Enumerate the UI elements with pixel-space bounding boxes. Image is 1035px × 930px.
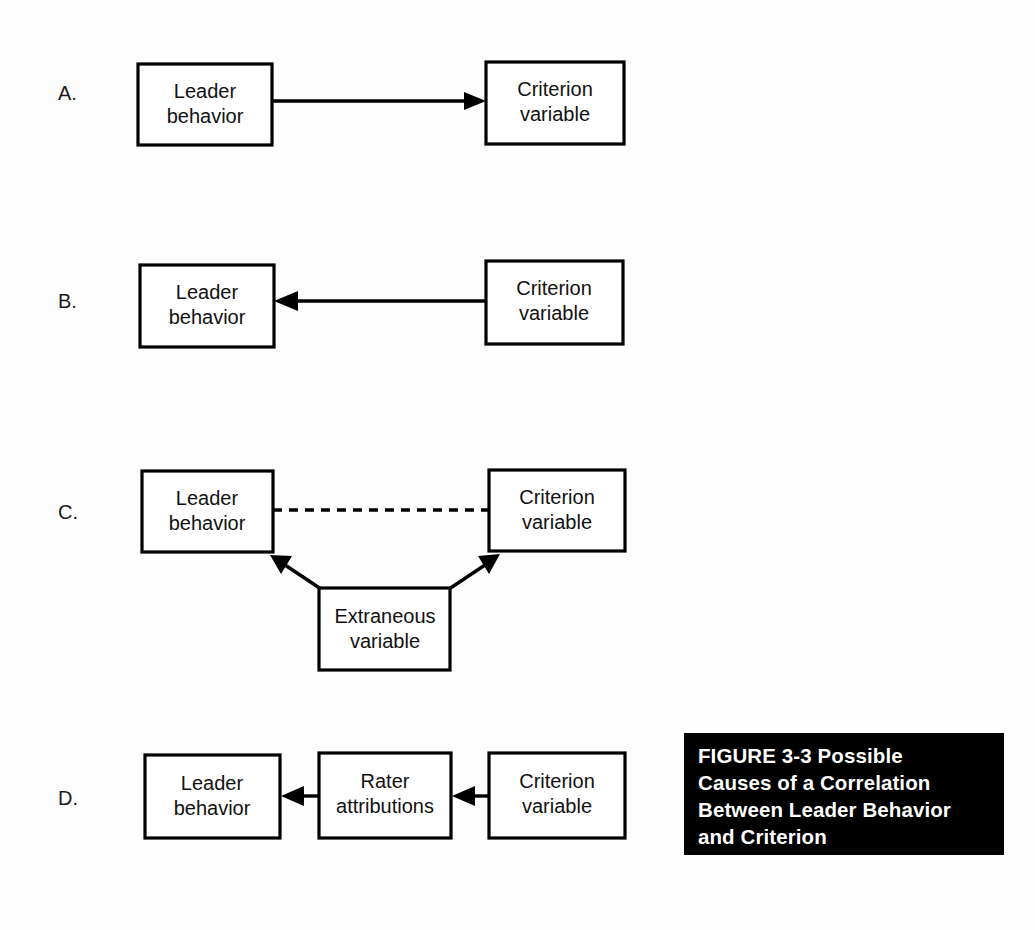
link-b-criterion-to-leader	[274, 291, 486, 311]
arrow-head-icon	[270, 555, 292, 574]
node-label-line2: variable	[522, 795, 592, 817]
arrow-head-icon	[478, 554, 500, 574]
node-c-extraneous: Extraneous variable	[319, 588, 450, 670]
panel-label-d: D.	[58, 787, 78, 809]
node-label-line2: behavior	[167, 105, 244, 127]
node-box	[319, 588, 450, 670]
connector-line	[449, 563, 488, 589]
link-c-extraneous-to-criterion	[449, 554, 500, 589]
arrow-head-icon	[464, 92, 486, 110]
node-c-leader: Leader behavior	[142, 471, 273, 552]
node-label-line2: behavior	[169, 306, 246, 328]
connector-line	[282, 563, 321, 589]
link-c-extraneous-to-leader	[270, 555, 321, 589]
node-label-line2: attributions	[336, 795, 434, 817]
node-label-line2: variable	[522, 511, 592, 533]
link-d-rater-to-leader	[281, 786, 320, 806]
node-b-criterion: Criterion variable	[486, 261, 623, 344]
node-label-line1: Extraneous	[334, 605, 435, 627]
node-label-line1: Criterion	[519, 770, 595, 792]
arrow-head-icon	[452, 786, 475, 806]
node-label-line1: Criterion	[519, 486, 595, 508]
arrow-head-icon	[274, 291, 298, 311]
arrow-head-icon	[281, 786, 304, 806]
panel-a: A. Leader behavior Criterion variable	[58, 62, 624, 145]
node-label-line2: behavior	[174, 797, 251, 819]
node-label-line2: behavior	[169, 512, 246, 534]
node-d-rater: Rater attributions	[319, 753, 451, 838]
node-d-leader: Leader behavior	[145, 755, 280, 838]
node-label-line1: Leader	[174, 80, 237, 102]
node-label-line2: variable	[520, 103, 590, 125]
panel-b: B. Leader behavior Criterion variable	[58, 261, 623, 347]
panel-label-b: B.	[58, 290, 77, 312]
node-label-line1: Criterion	[516, 277, 592, 299]
figure-caption-text: FIGURE 3-3 Possible Causes of a Correlat…	[698, 742, 1004, 850]
node-c-criterion: Criterion variable	[489, 470, 625, 551]
node-label-line2: variable	[519, 302, 589, 324]
node-label-line1: Criterion	[517, 78, 593, 100]
node-label-line1: Leader	[181, 772, 244, 794]
node-d-criterion: Criterion variable	[489, 753, 625, 838]
node-label-line1: Leader	[176, 281, 239, 303]
node-a-leader: Leader behavior	[138, 64, 272, 145]
link-a-leader-to-criterion	[272, 92, 486, 110]
panel-label-c: C.	[58, 501, 78, 523]
node-b-leader: Leader behavior	[140, 265, 274, 347]
panel-c: C. Leader behavior Criterion variable	[58, 470, 625, 670]
link-d-criterion-to-rater	[452, 786, 490, 806]
node-a-criterion: Criterion variable	[486, 62, 624, 144]
figure-page: A. Leader behavior Criterion variable B.	[0, 0, 1035, 930]
panel-label-a: A.	[58, 82, 77, 104]
node-label-line1: Rater	[361, 770, 410, 792]
node-label-line2: variable	[350, 630, 420, 652]
figure-caption-box: FIGURE 3-3 Possible Causes of a Correlat…	[684, 733, 1004, 855]
node-label-line1: Leader	[176, 487, 239, 509]
panel-d: D. Leader behavior Rater attributions	[58, 753, 625, 838]
